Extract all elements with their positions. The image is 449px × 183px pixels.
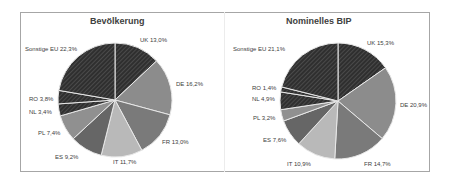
label-pl: PL 7,4%	[38, 130, 60, 136]
label-other: Sonstige EU 21,1%	[233, 46, 285, 52]
label-es: ES 9,2%	[55, 154, 78, 160]
label-ro: RO 1,4%	[252, 85, 276, 91]
label-de: DE 16,2%	[176, 81, 203, 87]
chart-title-population: Bevölkerung	[90, 16, 145, 26]
label-fr: FR 14,7%	[364, 161, 391, 167]
label-it: IT 11,7%	[113, 159, 136, 165]
label-other: Sonstige EU 22,3%	[25, 46, 77, 52]
label-nl: NL 4,9%	[252, 96, 275, 102]
label-es: ES 7,6%	[263, 137, 286, 143]
label-de: DE 20,9%	[400, 102, 427, 108]
label-ro: RO 3,8%	[29, 96, 53, 102]
label-fr: FR 13,0%	[162, 139, 189, 145]
label-pl: PL 3,2%	[253, 115, 275, 121]
chart-gdp: Nominelles BIP UK 15,3% DE 20,9% FR 14,7…	[225, 12, 430, 172]
label-it: IT 10,9%	[287, 161, 311, 167]
chart-title-gdp: Nominelles BIP	[286, 16, 352, 26]
label-nl: NL 3,4%	[29, 109, 52, 115]
label-uk: UK 13,0%	[140, 37, 167, 43]
pie-gdp	[225, 12, 430, 172]
pie-population	[20, 12, 224, 172]
label-uk: UK 15,3%	[367, 40, 394, 46]
chart-population: Bevölkerung UK 13,0% DE 16,2% FR 13,0% I…	[20, 12, 224, 172]
